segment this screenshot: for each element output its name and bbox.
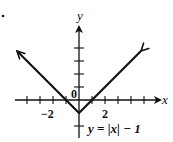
y-axis-label: y <box>75 8 83 23</box>
graph-figure: y x 0 −2 2 y = |x| − 1 <box>0 0 173 142</box>
origin-label: 0 <box>71 87 77 101</box>
stray-dot <box>2 15 5 18</box>
equation-label: y = |x| − 1 <box>86 121 141 136</box>
x-tick-label-neg2: −2 <box>41 107 54 121</box>
x-axis-label: x <box>161 92 168 107</box>
x-tick-label-2: 2 <box>102 107 108 121</box>
